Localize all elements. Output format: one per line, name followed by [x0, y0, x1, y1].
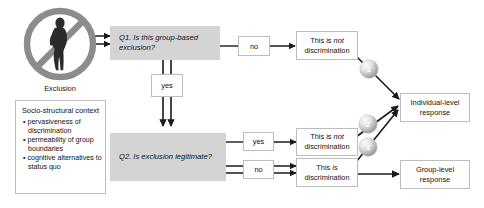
sphere-2-label: 2 [366, 121, 370, 128]
sphere-1[interactable]: 1 [360, 60, 378, 78]
sphere-layer: 1 2 3 [0, 0, 484, 208]
sphere-2[interactable]: 2 [359, 115, 377, 133]
sphere-3[interactable]: 3 [359, 138, 377, 156]
diagram-canvas: Exclusion Socio-structural context perva… [0, 0, 484, 208]
sphere-3-label: 3 [366, 144, 370, 151]
sphere-1-label: 1 [367, 66, 371, 73]
